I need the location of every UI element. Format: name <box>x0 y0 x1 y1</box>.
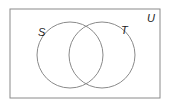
set-s-label: S <box>38 26 46 38</box>
venn-diagram: S T U <box>0 0 170 102</box>
universe-label: U <box>147 12 155 24</box>
set-s-circle <box>37 22 103 88</box>
